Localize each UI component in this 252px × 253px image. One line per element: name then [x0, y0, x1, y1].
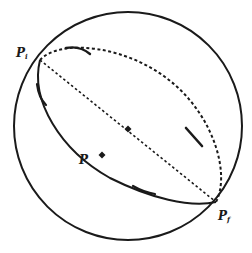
label-p-mid: P	[78, 153, 89, 167]
sphere-diagram: Pi Pf P	[0, 0, 252, 253]
center-marker	[125, 126, 132, 133]
dashed-back-arc	[40, 48, 221, 202]
label-p-final: Pf	[217, 209, 232, 224]
label-p-initial: Pi	[15, 46, 28, 61]
arrow-icon	[186, 128, 202, 146]
point-p-marker	[99, 152, 106, 159]
